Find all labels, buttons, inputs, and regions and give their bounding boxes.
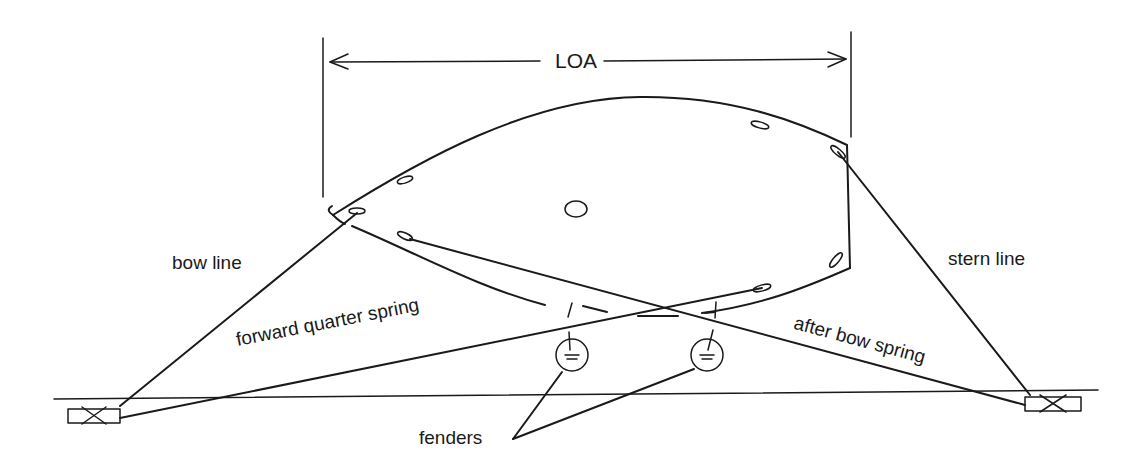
- fender-pointer: [513, 369, 694, 439]
- fenders-label: fenders: [419, 428, 482, 447]
- loa-arrow-right-shaft: [604, 59, 846, 61]
- forward-quarter-spring-line: [120, 288, 762, 418]
- mooring-lines: [120, 152, 1030, 418]
- loa-label: LOA: [555, 50, 597, 71]
- stern-line-label: stern line: [948, 249, 1025, 268]
- cleat-icon: [751, 120, 770, 130]
- dock-edge: [54, 390, 1098, 399]
- boat-hull: [329, 97, 850, 318]
- loa-arrow-left-shaft: [330, 61, 540, 62]
- cleat-icon: [828, 251, 844, 269]
- stern-line: [838, 152, 1030, 395]
- dock-cleat-right: [1025, 395, 1081, 412]
- dock-cleat-left: [68, 407, 120, 424]
- fenders: [513, 330, 723, 439]
- mast-icon: [565, 201, 587, 217]
- mooring-diagram: LOA bow line stern line forward quarter …: [0, 0, 1143, 469]
- bow-line-label: bow line: [172, 253, 242, 272]
- after-bow-spring-line: [410, 239, 1025, 405]
